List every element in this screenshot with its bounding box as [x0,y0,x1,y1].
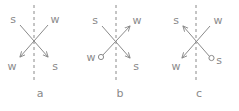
panel-b: s w w s b [80,0,160,111]
label-top-right: w [214,14,223,27]
label-bottom-right: s [216,54,222,67]
figure-root: s w w s a s w w [0,0,239,111]
panel-c: s w w s c [159,0,239,111]
label-top-right: w [51,13,60,26]
label-bottom-left: w [172,60,181,73]
panel-a: s w w s a [0,0,80,111]
panel-c-drawing: s w w s [159,0,239,90]
label-bottom-right: s [52,60,58,73]
label-bottom-right: s [133,60,139,73]
panel-a-drawing: s w w s [0,0,80,90]
panel-b-drawing: s w w s [80,0,160,90]
label-top-right: w [133,14,142,27]
label-bottom-left: w [8,60,17,73]
circle-marker-bottom-right [209,55,214,60]
label-bottom-left: w [87,51,96,64]
label-top-left: s [92,14,98,27]
panel-caption-c: c [159,88,239,100]
label-top-left: s [10,13,16,26]
label-top-left: s [173,14,179,27]
panel-caption-b: b [80,88,160,100]
circle-marker-bottom-left [98,54,103,59]
panel-caption-a: a [0,88,80,100]
